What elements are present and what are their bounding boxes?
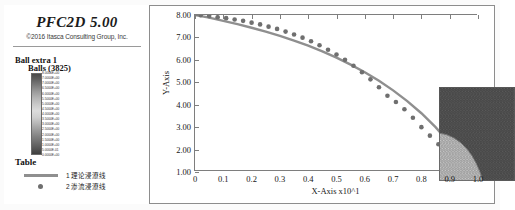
colorbar-tick: 1.5000E+00 — [42, 139, 59, 142]
x-axis-label: X-Axis x10^1 — [194, 186, 477, 196]
legend-table-label: Table — [15, 157, 36, 167]
x-axis-tick-mark — [365, 15, 366, 19]
y-axis-tick-label: 7.00 — [176, 32, 191, 42]
seepage-data-point — [224, 16, 229, 21]
x-axis-tick-mark — [421, 15, 422, 19]
y-axis-tick-mark — [195, 172, 199, 173]
table-legend-list: 1 理论浸潦线2 渗流浸潦线 — [24, 170, 144, 192]
legend-panel: PFC2D 5.00 ©2016 Itasca Consulting Group… — [4, 5, 150, 204]
colorbar-tick-labels: 8.0000E+007.0000E+007.0000E+006.5000E+00… — [42, 72, 98, 156]
particle-assembly-inset — [439, 87, 515, 181]
plot-svg — [195, 15, 478, 172]
y-axis-tick-mark — [195, 82, 199, 83]
seepage-data-point — [326, 47, 331, 52]
seepage-data-point — [249, 20, 254, 25]
legend-item-label: 1 理论浸潦线 — [66, 170, 106, 180]
legend-line-swatch — [24, 174, 58, 177]
y-axis-tick-label: 2.00 — [176, 145, 191, 155]
inset-svg — [439, 87, 515, 181]
seepage-data-point — [411, 115, 416, 120]
seepage-data-point — [232, 17, 237, 22]
x-axis-tick-label: 0.4 — [303, 174, 314, 184]
seepage-data-point — [402, 107, 407, 112]
colorbar-tick: 3.0000E+00 — [42, 123, 59, 126]
x-axis-tick-label: 0.2 — [246, 174, 257, 184]
x-axis-tick-mark — [195, 15, 196, 19]
y-axis-tick-mark — [195, 150, 199, 151]
plot-region: 1.002.003.004.005.006.007.008.0000.10.20… — [194, 14, 477, 171]
seepage-data-point — [258, 22, 263, 27]
colorbar-tick: 5.0000E+00 — [42, 103, 59, 106]
seepage-data-point — [377, 85, 382, 90]
x-axis-tick-label: 0 — [193, 174, 197, 184]
seepage-data-point — [275, 27, 280, 32]
colorbar-tick: 7.0000E+00 — [42, 77, 59, 80]
y-axis-tick-mark — [195, 60, 199, 61]
colorbar-tick: 5.0000E-01 — [42, 149, 58, 152]
x-axis-tick-mark — [223, 15, 224, 19]
seepage-data-point — [309, 39, 314, 44]
x-axis-tick-mark — [337, 15, 338, 19]
legend-item[interactable]: 1 理论浸潦线 — [24, 170, 144, 181]
legend-divider — [13, 46, 141, 47]
x-axis-tick-mark — [252, 15, 253, 19]
y-axis-tick-label: 1.00 — [176, 167, 191, 177]
theoretical-phreatic-line — [195, 15, 478, 172]
x-axis-tick-label: 0.5 — [331, 174, 342, 184]
x-axis-tick-label: 1.0 — [473, 174, 484, 184]
colorbar-tick: 2.5000E+00 — [42, 128, 59, 131]
x-axis-tick-mark — [308, 15, 309, 19]
page-title: PFC2D 5.00 — [4, 14, 150, 31]
seepage-data-point — [334, 52, 339, 57]
x-axis-tick-label: 0.1 — [218, 174, 229, 184]
colorbar-tick: 0.0000E+00 — [42, 154, 59, 157]
x-axis-tick-mark — [280, 15, 281, 19]
seepage-data-point — [368, 77, 373, 82]
seepage-data-point — [343, 58, 348, 63]
seepage-data-point — [292, 32, 297, 37]
chart-area: Y-Axis 1.002.003.004.005.006.007.008.000… — [150, 5, 495, 204]
colorbar — [31, 73, 42, 155]
y-axis-label: Y-Axis — [161, 71, 171, 95]
x-axis-tick-mark — [393, 15, 394, 19]
colorbar-tick: 5.5000E+00 — [42, 98, 59, 101]
seepage-data-point — [360, 70, 365, 75]
y-axis-tick-label: 3.00 — [176, 122, 191, 132]
seepage-data-point — [385, 93, 390, 98]
colorbar-tick: 8.0000E+00 — [42, 72, 59, 75]
colorbar-tick: 1.0000E+00 — [42, 144, 59, 147]
colorbar-tick: 3.5000E+00 — [42, 118, 59, 121]
x-axis-tick-label: 0.3 — [275, 174, 286, 184]
copyright-notice: ©2016 Itasca Consulting Group, Inc. — [4, 33, 150, 40]
seepage-data-point — [317, 43, 322, 48]
x-axis-tick-mark — [450, 15, 451, 19]
colorbar-tick: 6.0000E+00 — [42, 93, 59, 96]
colorbar-tick: 6.5000E+00 — [42, 87, 59, 90]
seepage-data-point — [283, 29, 288, 34]
x-axis-tick-label: 0.7 — [388, 174, 399, 184]
seepage-data-point — [419, 125, 424, 130]
seepage-data-point — [428, 133, 433, 138]
legend-dot-swatch — [38, 184, 43, 189]
y-axis-tick-label: 6.00 — [176, 55, 191, 65]
x-axis-tick-mark — [478, 15, 479, 19]
seepage-data-point — [394, 100, 399, 105]
y-axis-tick-label: 4.00 — [176, 100, 191, 110]
y-axis-tick-mark — [195, 37, 199, 38]
seepage-data-point — [266, 24, 271, 29]
colorbar-tick: 7.0000E+00 — [42, 82, 59, 85]
legend-item-label: 2 渗流浸潦线 — [66, 181, 106, 191]
seepage-data-point — [215, 15, 220, 20]
colorbar-tick: 4.5000E+00 — [42, 108, 59, 111]
colorbar-tick: 2.0000E+00 — [42, 134, 59, 137]
legend-item[interactable]: 2 渗流浸潦线 — [24, 181, 144, 192]
seepage-data-point — [300, 35, 305, 40]
y-axis-tick-label: 5.00 — [176, 77, 191, 87]
x-axis-tick-label: 0.6 — [359, 174, 370, 184]
y-axis-tick-mark — [195, 105, 199, 106]
x-axis-tick-label: 0.8 — [416, 174, 427, 184]
colorbar-tick: 4.0000E+00 — [42, 113, 59, 116]
y-axis-tick-label: 8.00 — [176, 10, 191, 20]
seepage-data-point — [241, 19, 246, 24]
